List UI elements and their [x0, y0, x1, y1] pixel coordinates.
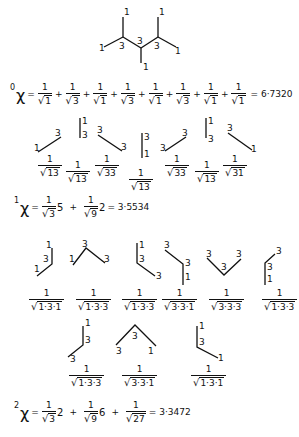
svg-text:1: 1 [99, 43, 105, 53]
svg-text:3: 3 [55, 128, 61, 138]
svg-text:3: 3 [132, 331, 138, 341]
svg-text:1: 1 [251, 144, 257, 154]
svg-text:3: 3 [182, 128, 188, 138]
chi2-equation: 2 χ = 1√3 2 + 1√9 6 + 1√27 = 3·3472 [14, 400, 193, 424]
chi2-path-fragments-row1: 131 133 133 331 333 331 [34, 239, 282, 285]
svg-text:3: 3 [85, 335, 91, 345]
chi2-path-term: 1√3·3·3 [209, 288, 244, 312]
chi2-path-term: 1√1·3·1 [191, 364, 226, 388]
svg-text:3: 3 [82, 239, 88, 249]
svg-text:3: 3 [104, 254, 110, 264]
svg-text:3: 3 [137, 36, 143, 46]
chi2-path-term: 1√1·3·1 [29, 288, 64, 312]
chi2-path-term: 1√1·3·3 [69, 364, 104, 388]
svg-text:1: 1 [34, 143, 40, 153]
svg-text:3: 3 [227, 123, 233, 133]
chi-symbol: χ [16, 86, 25, 105]
chi0-order: 0 [10, 83, 15, 92]
svg-text:1: 1 [124, 7, 130, 17]
chi2-path-term: 1√1·3·3 [262, 288, 297, 312]
svg-text:1: 1 [218, 353, 224, 363]
chi2-path-term: 1√3·3·1 [162, 288, 197, 312]
chi0-term: 1√1 [204, 82, 218, 106]
svg-text:1: 1 [185, 272, 191, 282]
svg-text:3: 3 [70, 354, 76, 364]
svg-text:1: 1 [139, 240, 145, 250]
chi1-edge-term: 1√33 [95, 154, 119, 178]
chi0-term: 1√3 [66, 82, 80, 106]
svg-text:3: 3 [144, 132, 150, 142]
svg-text:3: 3 [156, 271, 162, 281]
chi2-path-term: 1√1·3·3 [122, 288, 157, 312]
svg-text:1: 1 [85, 318, 91, 328]
chi0-term: 1√1 [93, 82, 107, 106]
svg-text:3: 3 [121, 142, 127, 152]
chi1-result: = 3·5534 [107, 202, 149, 212]
svg-text:1: 1 [175, 46, 181, 56]
svg-text:1: 1 [34, 264, 40, 274]
svg-text:3: 3 [221, 262, 227, 272]
svg-text:1: 1 [69, 254, 75, 264]
chi1-edge-fragments: 13 13 33 31 33 13 31 [34, 116, 257, 159]
svg-text:1: 1 [82, 116, 88, 126]
chi2-result: = 3·3472 [149, 407, 191, 417]
chi1-edge-term: 1√33 [165, 154, 189, 178]
chi1-equation: 1 χ = 1√3 5 + 1√9 2 = 3·5534 [14, 195, 151, 219]
svg-text:3: 3 [267, 262, 273, 272]
svg-text:3: 3 [82, 130, 88, 140]
svg-text:3: 3 [164, 240, 170, 250]
svg-text:1: 1 [199, 321, 205, 331]
svg-text:3: 3 [276, 246, 282, 256]
svg-text:1: 1 [144, 149, 150, 159]
chi0-term: 1√1 [231, 82, 245, 106]
svg-text:3: 3 [139, 254, 145, 264]
svg-text:1: 1 [208, 116, 214, 126]
svg-text:3: 3 [199, 337, 205, 347]
chi1-edge-term: 1√31 [223, 154, 247, 178]
chi1-edge-term: 1√13 [129, 168, 153, 192]
svg-text:3: 3 [236, 249, 242, 259]
chi2-path-term: 1√3·3·1 [122, 364, 157, 388]
svg-text:1: 1 [148, 346, 154, 356]
svg-text:3: 3 [97, 125, 103, 135]
chi0-term: 1√1 [38, 82, 52, 106]
svg-text:1: 1 [267, 274, 273, 284]
chi1-edge-term: 1√13 [66, 160, 90, 184]
svg-text:3: 3 [116, 346, 122, 356]
svg-text:1: 1 [143, 62, 149, 72]
chi-symbol: χ [20, 199, 29, 218]
svg-text:3: 3 [185, 258, 191, 268]
svg-text:3: 3 [206, 249, 212, 259]
svg-text:3: 3 [154, 41, 160, 51]
svg-text:3: 3 [160, 143, 166, 153]
svg-text:3: 3 [208, 134, 214, 144]
svg-text:3: 3 [43, 254, 49, 264]
svg-text:3: 3 [119, 41, 125, 51]
chi0-term: 1√1 [149, 82, 163, 106]
chi0-result: = 6·7320 [251, 89, 293, 99]
svg-text:1: 1 [159, 7, 165, 17]
chi-symbol: χ [20, 404, 29, 423]
chi0-equation: 0 χ = 1√1 + 1√3 + 1√1 + 1√3 + 1√1 + 1√3 … [10, 82, 295, 106]
chi0-term: 1√3 [176, 82, 190, 106]
chi1-edge-term: 1√13 [195, 160, 219, 184]
molecule-graph: 11 11 333 1 [99, 7, 181, 72]
chi2-path-term: 1√1·3·3 [76, 288, 111, 312]
chi1-edge-term: 1√13 [38, 154, 62, 178]
svg-text:1: 1 [46, 240, 52, 250]
chi0-term: 1√3 [121, 82, 135, 106]
chi2-path-fragments-row2: 133 331 131 [68, 318, 224, 364]
